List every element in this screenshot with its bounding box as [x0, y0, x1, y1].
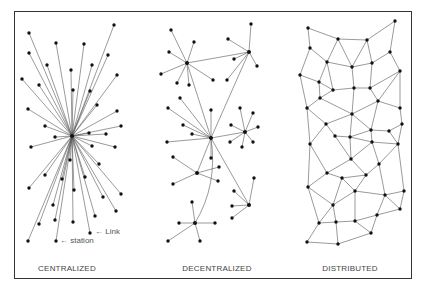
- mesh-node: [308, 46, 311, 49]
- link: [39, 85, 72, 136]
- link: [72, 111, 117, 136]
- mesh-node: [364, 173, 367, 176]
- mesh-link: [307, 108, 310, 144]
- station-node: [37, 222, 40, 225]
- station-node: [113, 145, 116, 148]
- mesh-link: [352, 40, 367, 67]
- mesh-link: [355, 221, 371, 233]
- link: [39, 136, 72, 224]
- station-node: [37, 83, 40, 86]
- mesh-link: [319, 82, 333, 90]
- mesh-node: [349, 157, 352, 160]
- mesh-link: [308, 28, 338, 39]
- mesh-node: [396, 142, 399, 145]
- link: [72, 136, 121, 194]
- mesh-link: [338, 39, 367, 40]
- station-node: [90, 63, 93, 66]
- mesh-node: [298, 73, 301, 76]
- mesh-link: [300, 75, 319, 82]
- mesh-link: [398, 144, 404, 191]
- link: [249, 178, 254, 205]
- station-node: [45, 63, 48, 66]
- station-node: [53, 135, 56, 138]
- annotation-station: ← station: [60, 236, 94, 245]
- mesh-link: [370, 63, 372, 88]
- station-node: [228, 140, 231, 143]
- mesh-link: [355, 191, 385, 195]
- link: [232, 205, 249, 206]
- mesh-link: [335, 136, 351, 159]
- mesh-node: [400, 122, 403, 125]
- hub-link: [187, 63, 211, 138]
- station-node: [225, 78, 228, 81]
- link: [53, 136, 72, 205]
- mesh-link: [327, 62, 333, 90]
- link: [232, 205, 249, 218]
- link: [56, 43, 72, 136]
- link: [72, 136, 103, 197]
- mesh-link: [371, 215, 377, 233]
- hub-link: [187, 52, 249, 63]
- link: [29, 33, 72, 136]
- station-node: [43, 124, 46, 127]
- mesh-link: [367, 40, 372, 63]
- station-node: [83, 175, 86, 178]
- mesh-node: [325, 60, 328, 63]
- hub-node: [209, 136, 213, 140]
- mesh-link: [378, 71, 400, 101]
- mesh-link: [370, 71, 400, 88]
- mesh-node: [353, 219, 356, 222]
- station-node: [29, 145, 32, 148]
- station-node: [159, 72, 162, 75]
- station-node: [187, 83, 190, 86]
- link: [72, 136, 116, 211]
- link: [168, 223, 195, 241]
- station-node: [119, 192, 122, 195]
- mesh-node: [333, 134, 336, 137]
- mesh-link: [320, 98, 352, 114]
- link: [227, 52, 249, 80]
- station-node: [27, 31, 30, 34]
- mesh-node: [353, 189, 356, 192]
- station-node: [90, 144, 93, 147]
- mesh-node: [325, 171, 328, 174]
- hub-link: [195, 138, 213, 223]
- mesh-link: [307, 242, 338, 244]
- station-node: [209, 156, 212, 159]
- mesh-node: [398, 207, 401, 210]
- mesh-link: [398, 124, 402, 144]
- station-node: [54, 239, 57, 242]
- mesh-node: [334, 220, 337, 223]
- mesh-link: [327, 173, 342, 178]
- station-node: [101, 195, 104, 198]
- mesh-link: [378, 101, 400, 108]
- mesh-link: [308, 173, 327, 187]
- station-node: [169, 28, 172, 31]
- mesh-node: [317, 80, 320, 83]
- mesh-node: [317, 221, 320, 224]
- link: [187, 42, 194, 63]
- station-node: [249, 22, 252, 25]
- mesh-link: [308, 187, 333, 205]
- station-node: [71, 88, 74, 91]
- mesh-node: [368, 86, 371, 89]
- mesh-node: [318, 96, 321, 99]
- station-node: [115, 73, 118, 76]
- station-node: [20, 77, 23, 80]
- mesh-link: [310, 48, 327, 62]
- link: [173, 173, 197, 184]
- mesh-link: [352, 67, 354, 88]
- mesh-link: [307, 108, 326, 124]
- link: [183, 125, 211, 138]
- mesh-node: [336, 37, 339, 40]
- mesh-link: [327, 159, 351, 173]
- station-node: [87, 131, 90, 134]
- link: [249, 52, 257, 66]
- station-node: [68, 158, 71, 161]
- mesh-node: [336, 242, 339, 245]
- hub-link: [211, 132, 245, 138]
- hub-node: [195, 171, 199, 175]
- hub-link: [197, 138, 211, 173]
- station-node: [190, 132, 193, 135]
- station-node: [181, 123, 184, 126]
